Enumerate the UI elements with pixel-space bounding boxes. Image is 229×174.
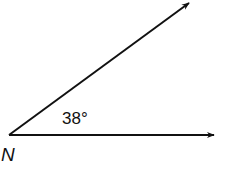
upper-ray (9, 3, 189, 135)
angle-diagram: 38° N (0, 0, 229, 174)
angle-label: 38° (62, 109, 88, 128)
vertex-label: N (1, 144, 15, 165)
